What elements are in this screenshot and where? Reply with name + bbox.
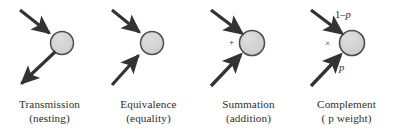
node-summation [240,31,265,56]
arrow-in-lower-summation [211,55,241,86]
caption-weight-text: weight) [334,112,372,124]
arrow-in-upper-equivalence [112,10,140,32]
caption-transmission: Transmission (nesting) [0,97,99,125]
arrow-in-upper-summation [211,10,242,33]
arrow-out-transmission [22,52,56,84]
panel-equivalence: Equivalence (equality) [99,0,198,137]
caption-line-secondary: ( p weight) [297,111,395,125]
caption-line-primary: Complement [297,97,395,111]
caption-line-secondary: (nesting) [0,111,99,125]
p-weight-label: p [339,63,344,74]
node-complement [340,31,365,56]
neuron-notation-figure: Transmission (nesting) [0,0,395,137]
caption-summation: Summation (addition) [199,97,298,125]
panel-complement: 1–p × p Complement ( p weight) [297,0,395,137]
times-operator-label: × [325,39,330,48]
caption-line-primary: Equivalence [99,97,198,111]
caption-equivalence: Equivalence (equality) [99,97,198,125]
arrow-in-transmission [20,10,50,33]
caption-complement: Complement ( p weight) [297,97,395,125]
diagram-transmission [0,0,99,95]
node-equivalence [141,32,164,55]
diagram-equivalence [99,0,198,95]
arrow-in-lower-equivalence [112,56,139,86]
one-minus-p-weight-label: 1–p [335,10,351,21]
caption-line-primary: Summation [199,97,298,111]
caption-line-secondary: (addition) [199,111,298,125]
caption-line-primary: Transmission [0,97,99,111]
arrow-in-lower-complement [311,55,341,86]
panel-summation: + Summation (addition) [199,0,298,137]
panel-transmission: Transmission (nesting) [0,0,99,137]
plus-operator-label: + [229,38,234,47]
diagram-summation [199,0,298,95]
caption-line-secondary: (equality) [99,111,198,125]
